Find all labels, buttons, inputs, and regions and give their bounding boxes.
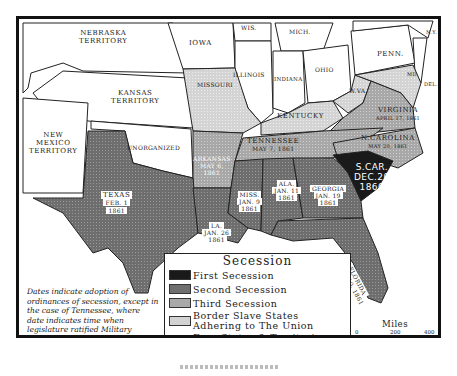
label-text: KANSAS TERRITORY bbox=[111, 89, 160, 105]
label-date: JAN. 19 bbox=[314, 192, 343, 199]
label-year: 1860 bbox=[360, 182, 385, 192]
ohio bbox=[303, 45, 351, 103]
label-text: KENTUCKY bbox=[277, 112, 324, 120]
label-date: MAY 7, 1861 bbox=[252, 145, 294, 152]
label-penn: PENN. bbox=[377, 50, 404, 58]
label-new-mexico: NEW MEXICO TERRITORY bbox=[29, 131, 78, 155]
map-note: Dates indicate adoption of ordinances of… bbox=[27, 287, 159, 338]
label-date: JAN. 26 bbox=[202, 229, 231, 236]
label-mich: MICH. bbox=[289, 28, 311, 35]
label-text: N.Y. bbox=[426, 29, 437, 35]
label-nebraska: NEBRASKA TERRITORY bbox=[79, 29, 128, 45]
label-text: ARKANSAS bbox=[193, 155, 231, 162]
label-ala: ALA.JAN. 111861 bbox=[272, 180, 301, 201]
label-date: DEC.20 bbox=[354, 172, 390, 182]
label-scar: S.CAR.DEC.201860 bbox=[354, 162, 390, 192]
label-kentucky: KENTUCKY bbox=[277, 112, 324, 120]
label-virginia: VIRGINIAAPRIL 17, 1861 bbox=[376, 106, 420, 122]
label-ny: N.Y. bbox=[426, 29, 437, 36]
label-illinois: ILLINOIS bbox=[233, 71, 265, 78]
label-unorganized: UNORGANIZED bbox=[127, 144, 180, 151]
label-year: 1861 bbox=[276, 194, 296, 201]
label-indiana: INDIANA bbox=[274, 76, 302, 83]
label-text: WIS. bbox=[241, 24, 257, 31]
legend-item-free-states: Free States & TerritoriesAdhering to The… bbox=[169, 332, 346, 338]
label-md: MD. bbox=[407, 71, 418, 78]
legend-label: Border Slave StatesAdhering to The Union bbox=[193, 311, 314, 331]
label-arkansas: ARKANSASMAY 6,1861 bbox=[193, 155, 231, 176]
label-wva: W.VA. bbox=[349, 87, 368, 94]
label-georgia: GEORGIAJAN. 191861 bbox=[310, 185, 346, 206]
legend-label: Second Secession bbox=[193, 284, 287, 295]
label-text: TEXAS bbox=[101, 191, 132, 199]
legend-item-first-secession: First Secession bbox=[169, 268, 346, 282]
legend-label: First Secession bbox=[193, 270, 274, 281]
legend-label: Third Secession bbox=[193, 298, 277, 309]
swatch-third bbox=[169, 298, 191, 308]
label-year: 1861 bbox=[106, 207, 126, 214]
label-text: S.CAR. bbox=[356, 162, 388, 172]
label-ncarolina: N.CAROLINAMAY 20, 1861 bbox=[361, 134, 415, 150]
label-text: OHIO bbox=[315, 66, 334, 73]
label-text: PENN. bbox=[377, 50, 404, 58]
label-text: UNORGANIZED bbox=[127, 144, 180, 151]
label-text: MICH. bbox=[289, 28, 311, 35]
label-kansas: KANSAS TERRITORY bbox=[111, 89, 160, 105]
label-year: 1861 bbox=[239, 205, 259, 212]
label-text: GEORGIA bbox=[310, 185, 346, 192]
label-texas: TEXASFEB. 11861 bbox=[101, 191, 132, 215]
scale-tick: 0 bbox=[355, 329, 359, 335]
label-text: ILLINOIS bbox=[233, 71, 265, 78]
label-text: W.VA. bbox=[349, 87, 368, 94]
label-la: LA.JAN. 261861 bbox=[202, 222, 231, 243]
legend-item-second-secession: Second Secession bbox=[169, 282, 346, 296]
label-text: DEL. bbox=[424, 81, 438, 87]
label-date: APRIL 17, 1861 bbox=[376, 115, 420, 121]
label-year: 1861 bbox=[318, 199, 338, 206]
label-date: JAN. 11 bbox=[272, 187, 301, 194]
label-wis: WIS. bbox=[241, 24, 257, 31]
label-iowa: IOWA bbox=[189, 39, 212, 47]
label-tennessee: TENNESSEEMAY 7, 1861 bbox=[247, 137, 299, 153]
scale-tick: 400 bbox=[424, 329, 435, 335]
scale-bar: Miles 0 200 400 bbox=[354, 319, 436, 338]
label-missouri: MISSOURI bbox=[197, 81, 233, 88]
legend-title: Secession bbox=[169, 255, 346, 268]
swatch-second bbox=[169, 284, 191, 294]
label-text: INDIANA bbox=[274, 76, 302, 82]
label-text: NEW MEXICO TERRITORY bbox=[29, 131, 78, 155]
label-text: MD. bbox=[407, 71, 418, 77]
legend-item-third-secession: Third Secession bbox=[169, 296, 346, 310]
label-date: MAY 20, 1861 bbox=[368, 143, 407, 149]
scale-title: Miles bbox=[354, 319, 436, 329]
label-year: 1861 bbox=[204, 169, 220, 176]
caption-smudge bbox=[180, 365, 278, 369]
scale-tick: 200 bbox=[390, 329, 401, 335]
scale-graphic bbox=[356, 337, 434, 338]
label-text: ALA. bbox=[277, 180, 297, 187]
legend-label-line: Adhering to The Union bbox=[193, 320, 314, 331]
label-date: MAY 6, bbox=[200, 162, 224, 169]
legend-label-line: Free States & Territories bbox=[193, 332, 327, 338]
label-text: MISSOURI bbox=[197, 81, 233, 88]
label-year: 1861 bbox=[206, 236, 226, 243]
label-del: DEL. bbox=[424, 81, 438, 88]
label-text: MISS. bbox=[238, 191, 262, 198]
label-text: NEBRASKA TERRITORY bbox=[79, 29, 128, 45]
label-ohio: OHIO bbox=[315, 66, 334, 73]
label-text: N.CAROLINA bbox=[361, 134, 415, 142]
label-date: FEB. 1 bbox=[103, 199, 129, 206]
legend-label: Free States & TerritoriesAdhering to The… bbox=[193, 333, 327, 338]
label-text: LA. bbox=[209, 222, 224, 229]
legend: Secession First Secession Second Secessi… bbox=[164, 253, 351, 338]
label-text: TENNESSEE bbox=[247, 137, 299, 145]
label-miss: MISS.JAN. 91861 bbox=[237, 191, 262, 212]
label-date: JAN. 9 bbox=[237, 198, 262, 205]
legend-item-border-slave: Border Slave StatesAdhering to The Union bbox=[169, 310, 346, 332]
label-text: IOWA bbox=[189, 39, 212, 47]
swatch-border bbox=[169, 316, 191, 326]
label-text: VIRGINIA bbox=[378, 106, 418, 114]
secession-map: NEBRASKA TERRITORY KANSAS TERRITORY NEW … bbox=[16, 16, 441, 338]
swatch-first bbox=[169, 270, 191, 280]
